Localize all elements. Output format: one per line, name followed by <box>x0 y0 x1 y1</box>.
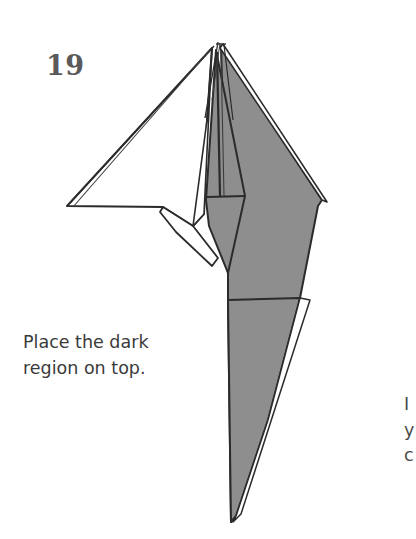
caption-line-2: region on top. <box>23 356 233 382</box>
diagram-page: 19 Place the dark region on top. I y c <box>0 0 416 539</box>
edge-text-line-1: I <box>404 392 416 418</box>
edge-text-line-2: y <box>404 418 416 444</box>
left-white-wing <box>67 48 212 226</box>
tail-gray <box>228 298 300 522</box>
step-number: 19 <box>46 52 85 79</box>
step-caption: Place the dark region on top. <box>23 330 233 381</box>
edge-text-line-3: c <box>404 443 416 469</box>
caption-line-1: Place the dark <box>23 330 233 356</box>
tie-horizontal-crease <box>207 196 245 197</box>
clipped-edge-text: I y c <box>404 392 416 469</box>
